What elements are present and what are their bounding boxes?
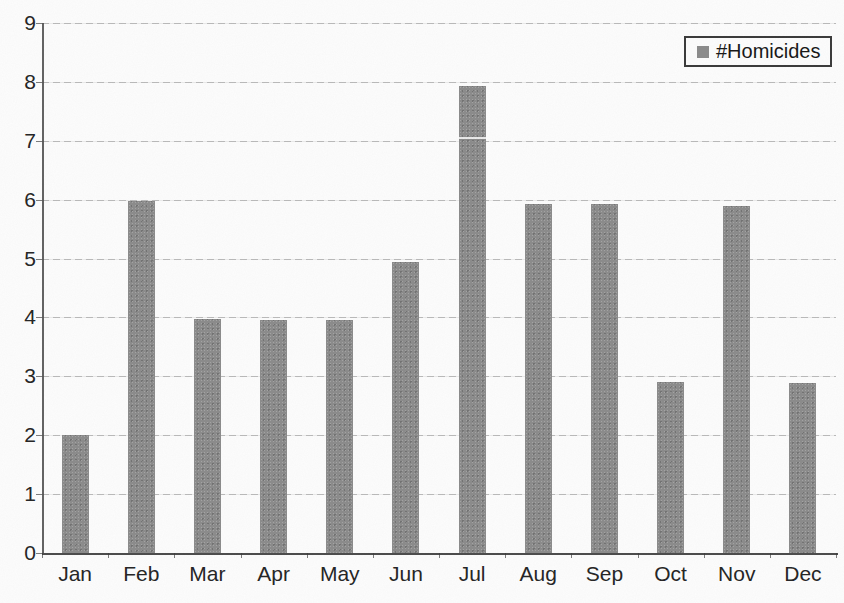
bar bbox=[194, 319, 221, 553]
x-axis-label: Jan bbox=[42, 562, 108, 586]
legend-marker-square bbox=[697, 46, 709, 58]
y-axis-label: 0 bbox=[0, 542, 36, 564]
gridline bbox=[42, 82, 836, 83]
y-axis-label: 5 bbox=[0, 248, 36, 270]
bar bbox=[789, 383, 816, 553]
gridline bbox=[42, 259, 836, 260]
plot-area: 0123456789JanFebMarAprMayJunJulAugSepOct… bbox=[0, 0, 844, 603]
x-axis-line bbox=[42, 553, 838, 555]
gridline bbox=[42, 317, 836, 318]
bar bbox=[128, 201, 155, 553]
legend-label: #Homicides bbox=[716, 40, 820, 63]
y-axis-line bbox=[42, 23, 44, 553]
y-axis-label: 1 bbox=[0, 483, 36, 505]
y-axis-label: 9 bbox=[0, 12, 36, 34]
y-axis-label: 4 bbox=[0, 306, 36, 328]
bar bbox=[723, 206, 750, 553]
y-axis-label: 6 bbox=[0, 189, 36, 211]
legend: #Homicides bbox=[684, 36, 832, 67]
scan-white-line bbox=[459, 137, 486, 139]
y-axis-label: 8 bbox=[0, 71, 36, 93]
x-axis-label: Jun bbox=[373, 562, 439, 586]
gridline bbox=[42, 494, 836, 495]
y-axis-label: 3 bbox=[0, 365, 36, 387]
gridline bbox=[42, 435, 836, 436]
bar bbox=[525, 204, 552, 553]
bar bbox=[260, 320, 287, 553]
x-axis-label: Aug bbox=[505, 562, 571, 586]
x-axis-label: Nov bbox=[704, 562, 770, 586]
bar bbox=[326, 320, 353, 553]
bar bbox=[591, 204, 618, 553]
bar bbox=[657, 382, 684, 553]
bar bbox=[392, 262, 419, 554]
x-axis-label: Feb bbox=[108, 562, 174, 586]
x-axis-label: May bbox=[307, 562, 373, 586]
y-axis-label: 2 bbox=[0, 424, 36, 446]
x-axis-label: Mar bbox=[174, 562, 240, 586]
x-axis-label: Dec bbox=[770, 562, 836, 586]
gridline bbox=[42, 376, 836, 377]
bar bbox=[62, 435, 89, 553]
y-axis-label: 7 bbox=[0, 130, 36, 152]
bar bbox=[459, 86, 486, 553]
x-axis-label: Apr bbox=[241, 562, 307, 586]
bar-chart: 0123456789JanFebMarAprMayJunJulAugSepOct… bbox=[0, 0, 844, 603]
gridline bbox=[42, 200, 836, 201]
x-axis-label: Jul bbox=[439, 562, 505, 586]
x-axis-label: Oct bbox=[638, 562, 704, 586]
x-axis-label: Sep bbox=[571, 562, 637, 586]
gridline bbox=[42, 23, 836, 24]
gridline bbox=[42, 141, 836, 142]
